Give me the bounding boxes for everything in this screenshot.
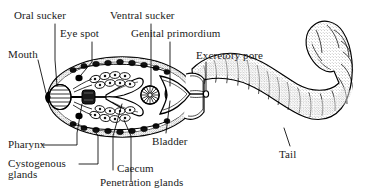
label-pharynx: Pharynx xyxy=(8,139,45,151)
excretory-pore xyxy=(203,91,208,97)
label-ventral-sucker: Ventral sucker xyxy=(110,10,175,22)
label-genital-primordium: Genital primordium xyxy=(131,28,220,40)
label-oral-sucker: Oral sucker xyxy=(14,10,66,22)
pharynx xyxy=(82,90,95,104)
oral-sucker xyxy=(49,85,71,110)
label-caecum: Caecum xyxy=(117,163,154,175)
label-penetration-glands: Penetration glands xyxy=(100,177,183,189)
label-tail: Tail xyxy=(279,149,296,161)
label-cystogenous-glands-line2: glands xyxy=(8,169,66,180)
label-cystogenous-glands: Cystogenous glands xyxy=(8,158,66,180)
label-excretory-pore: Excretory pore xyxy=(196,50,263,62)
label-mouth: Mouth xyxy=(8,49,38,61)
figure-canvas: Oral sucker Eye spot Mouth Ventral sucke… xyxy=(0,0,371,195)
label-eye-spot: Eye spot xyxy=(60,28,99,40)
ventral-sucker xyxy=(141,86,159,104)
label-bladder: Bladder xyxy=(152,136,188,148)
